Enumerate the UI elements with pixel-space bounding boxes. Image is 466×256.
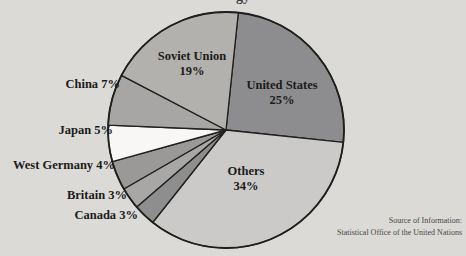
slice-label-soviet-union: Soviet Union 19% <box>158 49 226 79</box>
slice-label-united-states: United States 25% <box>246 78 317 108</box>
source-note-line2: Statistical Office of the United Nations <box>337 227 462 239</box>
slice-label-west-germany-name: West Germany <box>13 158 93 172</box>
cropped-title-fragment: gy <box>236 0 270 4</box>
slice-label-others-name: Others <box>228 164 265 179</box>
slice-label-china: China 7% <box>65 77 120 92</box>
slice-label-canada-name: Canada <box>74 208 116 222</box>
slice-label-soviet-union-name: Soviet Union <box>158 49 226 64</box>
slice-label-canada-pct: 3% <box>119 208 138 222</box>
slice-label-west-germany: West Germany 4% <box>13 158 115 173</box>
cropped-title-text: gy <box>236 0 270 4</box>
slice-label-japan-name: Japan <box>58 123 91 137</box>
slice-label-britain-pct: 3% <box>108 188 127 202</box>
slice-label-soviet-union-pct: 19% <box>158 64 226 79</box>
slice-label-united-states-name: United States <box>246 78 317 93</box>
source-note: Source of Information: Statistical Offic… <box>337 215 462 238</box>
slice-label-others: Others 34% <box>228 164 265 194</box>
slice-label-japan: Japan 5% <box>58 123 113 138</box>
chart-canvas: gy Soviet Union 19% United States 25% Ot… <box>0 0 466 256</box>
slice-label-japan-pct: 5% <box>94 123 113 137</box>
slice-label-united-states-pct: 25% <box>246 93 317 108</box>
slice-label-britain: Britain 3% <box>67 188 127 203</box>
source-note-line1: Source of Information: <box>337 215 462 227</box>
slice-label-canada: Canada 3% <box>74 208 138 223</box>
slice-label-china-pct: 7% <box>101 77 120 91</box>
slice-label-china-name: China <box>65 77 98 91</box>
slice-label-others-pct: 34% <box>228 179 265 194</box>
slice-label-west-germany-pct: 4% <box>96 158 115 172</box>
slice-label-britain-name: Britain <box>67 188 105 202</box>
